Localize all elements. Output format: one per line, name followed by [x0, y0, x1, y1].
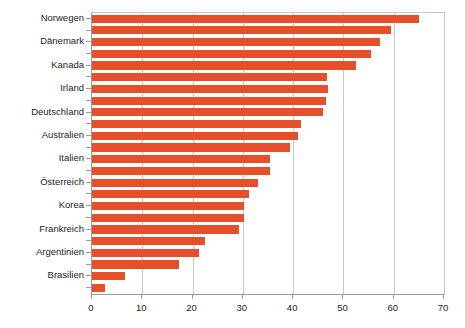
- x-axis-ticks: [91, 294, 444, 300]
- x-axis-tick: [443, 294, 444, 299]
- bar-row: [92, 200, 444, 212]
- bar-row: [92, 259, 444, 271]
- y-axis-tick: [86, 193, 91, 194]
- bar[interactable]: [92, 26, 391, 34]
- y-axis-tick: [86, 240, 91, 241]
- x-axis-tick: [91, 294, 92, 299]
- y-axis-label: Italien: [2, 153, 84, 163]
- y-axis-tick: [86, 100, 91, 101]
- bar-row: [92, 118, 444, 130]
- x-axis-label: 70: [438, 302, 449, 313]
- bar[interactable]: [92, 97, 326, 105]
- y-axis-tick: [86, 229, 91, 230]
- bar-row: [92, 107, 444, 119]
- bar[interactable]: [92, 155, 270, 163]
- x-axis-label: 30: [237, 302, 248, 313]
- bar-row: [92, 154, 444, 166]
- y-axis-tick: [86, 287, 91, 288]
- bar-row: [92, 130, 444, 142]
- y-axis-tick: [86, 275, 91, 276]
- bar[interactable]: [92, 85, 328, 93]
- x-axis-label: 50: [337, 302, 348, 313]
- y-axis-label: Norwegen: [2, 13, 84, 23]
- y-axis-label: Irland: [2, 83, 84, 93]
- bar[interactable]: [92, 132, 298, 140]
- bar-row: [92, 72, 444, 84]
- y-axis-tick: [86, 76, 91, 77]
- y-axis-tick: [86, 41, 91, 42]
- x-axis-tick: [292, 294, 293, 299]
- y-axis-tick: [86, 205, 91, 206]
- y-axis-tick: [86, 158, 91, 159]
- x-axis-label: 40: [287, 302, 298, 313]
- bar-row: [92, 95, 444, 107]
- bar-row: [92, 282, 444, 294]
- x-axis-label: 0: [88, 302, 93, 313]
- y-axis-tick: [86, 123, 91, 124]
- plot-area: [91, 12, 445, 295]
- bar[interactable]: [92, 214, 244, 222]
- bar-row: [92, 60, 444, 72]
- y-axis-labels: NorwegenDänemarkKanadaIrlandDeutschlandA…: [0, 0, 84, 328]
- x-axis-tick: [393, 294, 394, 299]
- y-axis-label: Österreich: [2, 177, 84, 187]
- bar[interactable]: [92, 61, 356, 69]
- bar-row: [92, 189, 444, 201]
- bar-row: [92, 224, 444, 236]
- bar[interactable]: [92, 249, 199, 257]
- y-axis-tick: [86, 112, 91, 113]
- y-axis-tick: [86, 135, 91, 136]
- x-axis-label: 20: [186, 302, 197, 313]
- y-axis-tick: [86, 53, 91, 54]
- x-axis-tick: [242, 294, 243, 299]
- y-axis-tick: [86, 182, 91, 183]
- bar[interactable]: [92, 237, 205, 245]
- bar[interactable]: [92, 260, 179, 268]
- y-axis-tick: [86, 264, 91, 265]
- bar[interactable]: [92, 202, 244, 210]
- y-axis-label: Dänemark: [2, 36, 84, 46]
- x-axis-label: 60: [387, 302, 398, 313]
- bar[interactable]: [92, 167, 270, 175]
- bar[interactable]: [92, 15, 419, 23]
- x-axis-tick: [141, 294, 142, 299]
- bar-row: [92, 25, 444, 37]
- bar-row: [92, 165, 444, 177]
- bar-row: [92, 13, 444, 25]
- bar-row: [92, 83, 444, 95]
- bar[interactable]: [92, 143, 290, 151]
- y-axis-tick: [86, 170, 91, 171]
- bar[interactable]: [92, 272, 125, 280]
- y-axis-label: Argentinien: [2, 247, 84, 257]
- y-axis-tick: [86, 18, 91, 19]
- bar[interactable]: [92, 190, 249, 198]
- x-axis-tick: [342, 294, 343, 299]
- y-axis-tick: [86, 252, 91, 253]
- bar-chart: NorwegenDänemarkKanadaIrlandDeutschlandA…: [0, 0, 465, 328]
- bar[interactable]: [92, 120, 301, 128]
- y-axis-tick: [86, 217, 91, 218]
- y-axis-label: Australien: [2, 130, 84, 140]
- bar[interactable]: [92, 73, 327, 81]
- bar[interactable]: [92, 284, 105, 292]
- bar[interactable]: [92, 50, 371, 58]
- bar-row: [92, 271, 444, 283]
- bar[interactable]: [92, 38, 380, 46]
- bar[interactable]: [92, 108, 323, 116]
- y-axis-label: Korea: [2, 200, 84, 210]
- bar-row: [92, 48, 444, 60]
- bars-layer: [92, 13, 444, 294]
- x-axis-label: 10: [136, 302, 147, 313]
- y-axis-tick: [86, 147, 91, 148]
- bar-row: [92, 36, 444, 48]
- bar-row: [92, 177, 444, 189]
- bar[interactable]: [92, 179, 258, 187]
- x-axis-labels: 010203040506070: [0, 302, 465, 318]
- y-axis-label: Kanada: [2, 60, 84, 70]
- y-axis-label: Brasilien: [2, 270, 84, 280]
- y-axis-tick: [86, 65, 91, 66]
- y-axis-label: Frankreich: [2, 224, 84, 234]
- bar-row: [92, 142, 444, 154]
- bar-row: [92, 247, 444, 259]
- bar[interactable]: [92, 225, 239, 233]
